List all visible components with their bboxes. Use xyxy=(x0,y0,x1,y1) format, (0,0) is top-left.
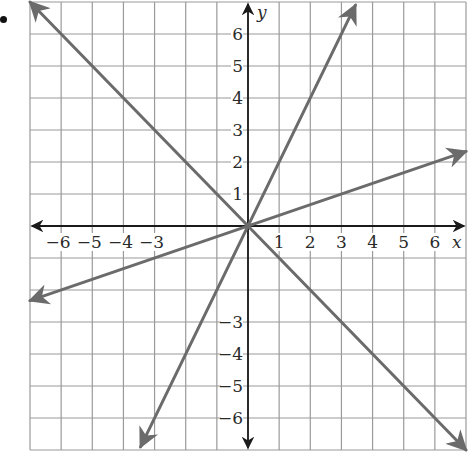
bullet-marker xyxy=(0,16,7,23)
y-tick-label: 5 xyxy=(232,56,243,76)
x-tick-label: 1 xyxy=(274,232,285,252)
y-tick-label: 1 xyxy=(232,184,243,204)
x-tick-label: −5 xyxy=(77,232,102,252)
y-tick-label: 6 xyxy=(232,24,243,44)
x-tick-label: −3 xyxy=(139,232,164,252)
x-tick-label: −6 xyxy=(46,232,71,252)
x-tick-label: 4 xyxy=(367,232,378,252)
y-tick-label: −5 xyxy=(218,376,243,396)
coordinate-plane-figure: −6−5−4−3123456654321−3−4−5−6 x y xyxy=(0,0,476,474)
x-tick-label: −4 xyxy=(108,232,133,252)
y-tick-label: 2 xyxy=(232,152,243,172)
y-axis-label: y xyxy=(256,2,267,22)
x-tick-label: 3 xyxy=(336,232,347,252)
x-tick-label: 2 xyxy=(305,232,316,252)
axis-titles: x y xyxy=(256,2,462,252)
y-tick-label: −4 xyxy=(218,344,243,364)
x-tick-label: 6 xyxy=(429,232,440,252)
coordinate-plane: −6−5−4−3123456654321−3−4−5−6 x y xyxy=(0,0,476,474)
y-tick-label: −3 xyxy=(218,312,243,332)
y-tick-label: 3 xyxy=(232,120,243,140)
x-axis-label: x xyxy=(452,232,462,252)
y-tick-label: −6 xyxy=(218,408,243,428)
y-tick-label: 4 xyxy=(232,88,243,108)
x-tick-label: 5 xyxy=(398,232,409,252)
